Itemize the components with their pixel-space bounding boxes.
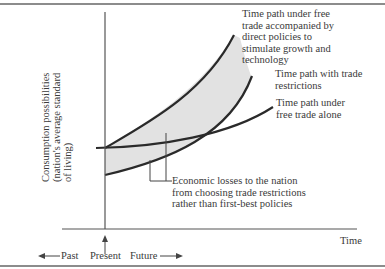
label-free-trade-alone: Time path under free trade alone (276, 97, 345, 120)
x-axis-label: Time (340, 235, 362, 247)
y-axis-label: Consumption possibilities (nation's aver… (40, 73, 73, 182)
loss-shaded-region (105, 35, 252, 175)
timeline-future: Future (130, 250, 157, 262)
timeline-past: Past (61, 250, 79, 262)
present-arrow-icon (102, 235, 108, 242)
loss-bracket (150, 160, 172, 181)
label-trade-restrictions: Time path with trade restrictions (275, 68, 362, 91)
timeline-present: Present (90, 250, 121, 262)
past-arrow-icon (38, 253, 45, 259)
loss-annotation: Economic losses to the nation from choos… (172, 175, 306, 210)
label-free-trade-with-policies: Time path under free trade accompanied b… (242, 8, 334, 66)
future-arrow-icon (176, 253, 183, 259)
